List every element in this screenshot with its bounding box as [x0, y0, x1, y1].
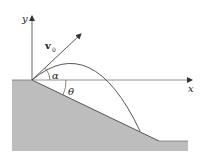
- ground-slope: [12, 80, 188, 151]
- projectile-diagram: y x v 0 α θ: [0, 0, 210, 161]
- alpha-label: α: [52, 70, 59, 81]
- x-axis-label: x: [188, 83, 194, 94]
- velocity-subscript: 0: [52, 46, 56, 53]
- theta-label: θ: [68, 86, 74, 97]
- velocity-label: v: [44, 40, 52, 51]
- y-axis-label: y: [21, 13, 28, 24]
- theta-arc: [63, 80, 66, 95]
